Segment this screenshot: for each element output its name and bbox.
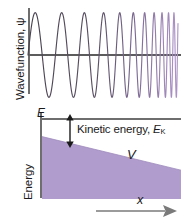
x-axis-label: x — [137, 193, 143, 207]
physics-figure: Wavefunction, ψ Energy E V Kinetic energ… — [0, 0, 181, 222]
potential-energy-label: V — [127, 147, 136, 162]
kinetic-energy-subscript: K — [161, 127, 166, 136]
kinetic-energy-label-text: Kinetic energy, — [77, 123, 153, 135]
kinetic-energy-symbol: E — [153, 123, 161, 135]
wavefunction-curve — [0, 0, 181, 103]
total-energy-label: E — [37, 106, 45, 120]
kinetic-energy-double-arrow — [62, 113, 78, 149]
wavefunction-axis-label: Wavefunction, ψ — [14, 18, 26, 100]
energy-panel: Energy E V Kinetic energy, EK x — [0, 103, 181, 222]
wavefunction-panel: Wavefunction, ψ — [0, 0, 181, 103]
energy-axis-label: Energy — [22, 164, 34, 200]
kinetic-energy-label: Kinetic energy, EK — [77, 123, 165, 135]
